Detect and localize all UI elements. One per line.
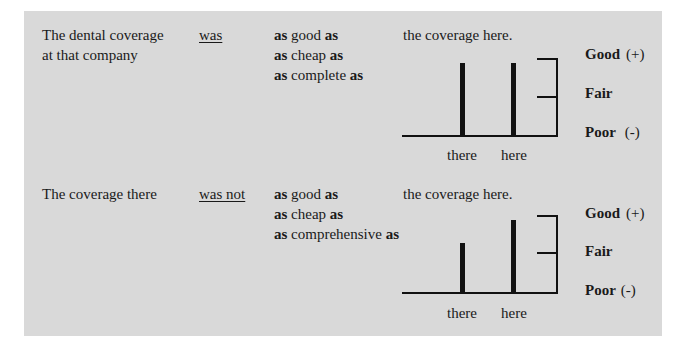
row2-tick-fair <box>537 252 557 254</box>
row1-label-good: Good(+) <box>585 45 644 63</box>
row1-comparison-2: as cheap as <box>274 45 343 65</box>
row1-label-poor: Poor(-) <box>585 123 640 141</box>
row1-subject-line1: The dental coverage <box>42 25 164 45</box>
row2-baseline <box>402 292 558 294</box>
row2-xlabel-here: here <box>501 304 527 322</box>
row2-label-poor: Poor(-) <box>585 281 636 299</box>
row1-comparison-1: as good as <box>274 25 338 45</box>
row1-label-fair: Fair <box>585 84 613 102</box>
row2-subject: The coverage there <box>42 184 157 204</box>
row1-object: the coverage here. <box>403 25 513 45</box>
row1-bar-here <box>511 63 516 136</box>
row1-xlabel-there: there <box>447 146 477 164</box>
row1-comparison-3: as complete as <box>274 65 363 85</box>
row2-scale-line <box>556 215 558 294</box>
row1-xlabel-here: here <box>501 146 527 164</box>
row2-verb: was not <box>199 184 245 204</box>
row2-comparison-2: as cheap as <box>274 204 343 224</box>
row2-object: the coverage here. <box>403 184 513 204</box>
row2-label-good: Good(+) <box>585 204 644 222</box>
row2-comparison-1: as good as <box>274 184 338 204</box>
row1-verb: was <box>199 25 222 45</box>
row2-bar-there <box>460 243 465 293</box>
row1-tick-good <box>537 58 557 60</box>
row2-comparison-3: as comprehensive as <box>274 224 399 244</box>
row2-tick-good <box>537 215 557 217</box>
row1-tick-fair <box>537 96 557 98</box>
row2-bar-here <box>511 220 516 293</box>
row1-baseline <box>402 135 558 137</box>
row1-subject-line2: at that company <box>42 45 138 65</box>
row2-xlabel-there: there <box>447 304 477 322</box>
row1-bar-there <box>460 63 465 136</box>
row2-label-fair: Fair <box>585 242 613 260</box>
